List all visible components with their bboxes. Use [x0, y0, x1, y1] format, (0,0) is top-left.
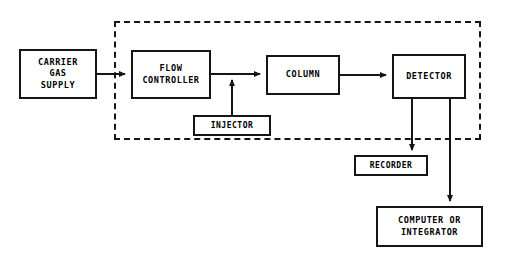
node-label-line: INTEGRATOR [401, 227, 458, 239]
node-label-line: DETECTOR [406, 71, 452, 83]
node-label-line: CARRIER [38, 57, 78, 69]
node-label-line: INJECTOR [211, 120, 254, 132]
gc-block-diagram: CARRIER GAS SUPPLY FLOW CONTROLLER INJEC… [0, 0, 505, 257]
node-flow-controller[interactable]: FLOW CONTROLLER [131, 50, 211, 99]
node-column[interactable]: COLUMN [266, 55, 340, 95]
node-label-line: GAS [49, 68, 66, 80]
node-carrier-gas-supply[interactable]: CARRIER GAS SUPPLY [19, 49, 97, 99]
node-label-line: SUPPLY [41, 80, 75, 92]
node-injector[interactable]: INJECTOR [193, 115, 271, 136]
node-detector[interactable]: DETECTOR [392, 54, 466, 99]
node-label-line: FLOW [160, 63, 183, 75]
node-label-line: RECORDER [370, 160, 413, 172]
node-label-line: CONTROLLER [142, 75, 199, 87]
node-label-line: COMPUTER OR [398, 215, 461, 227]
node-computer-or-integrator[interactable]: COMPUTER OR INTEGRATOR [376, 206, 483, 247]
node-label-line: COLUMN [286, 69, 320, 81]
node-recorder[interactable]: RECORDER [354, 155, 428, 176]
